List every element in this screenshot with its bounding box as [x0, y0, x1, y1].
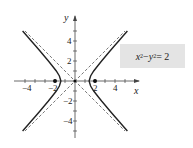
x-tick-label: −4 [22, 84, 32, 93]
hyperbola-plot [0, 0, 193, 148]
x-axis-arrow-icon [134, 79, 140, 83]
y-tick-label: 2 [67, 57, 72, 66]
center-point [73, 79, 76, 82]
y-tick-label: −4 [63, 117, 73, 126]
equation-label: x2 − y2 = 2 [120, 44, 185, 68]
x-tick-label: 4 [113, 84, 118, 93]
y-axis-arrow-icon [73, 15, 77, 21]
x-tick-label: −2 [48, 84, 58, 93]
x-axis-label: x [134, 86, 138, 96]
y-tick-label: 4 [67, 37, 72, 46]
equation-rhs: = 2 [156, 51, 169, 62]
y-axis-label: y [64, 13, 68, 23]
x-tick-label: 2 [93, 84, 98, 93]
y-tick-label: −2 [63, 97, 73, 106]
